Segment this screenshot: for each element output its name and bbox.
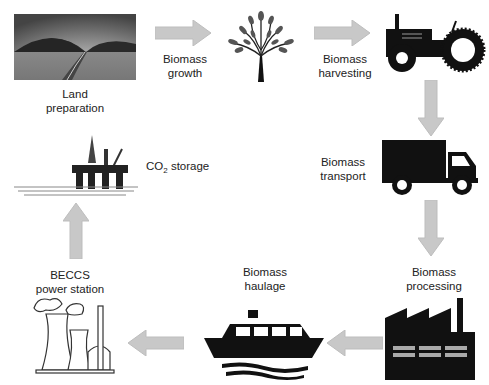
tree-icon [225,10,297,82]
ship-icon [204,310,324,380]
label-biomass-transport: Biomass transport [312,155,374,183]
label-co2-storage: CO2 storage [146,159,226,178]
factory-icon [385,298,475,380]
oil-platform-icon [14,135,138,197]
arrow-right-icon [314,20,370,46]
arrow-left-icon [327,330,383,356]
label-biomass-haulage: Biomass haulage [230,265,300,293]
tractor-icon [380,12,486,74]
label-biomass-processing: Biomass processing [396,265,472,293]
label-biomass-harvesting: Biomass harvesting [312,52,378,80]
arrow-down-icon [418,80,444,136]
arrow-up-icon [63,203,89,259]
power-station-icon [32,296,122,374]
arrow-right-icon [155,20,211,46]
label-beccs-power-station: BECCS power station [30,268,110,296]
landscape-icon [14,14,136,80]
arrow-down-icon [418,200,444,256]
arrow-left-icon [128,330,184,356]
label-biomass-growth: Biomass growth [150,52,220,80]
truck-icon [380,140,480,196]
label-land-preparation: Land preparation [20,87,130,115]
